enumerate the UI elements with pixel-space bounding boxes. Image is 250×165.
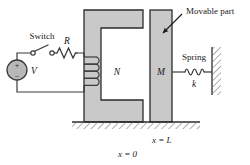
switch-left-node xyxy=(31,51,35,55)
coil-turns-label: N xyxy=(113,67,121,77)
magnetic-core xyxy=(84,10,143,122)
spring-assembly xyxy=(172,69,212,75)
switch[interactable] xyxy=(31,45,54,55)
movable-part-callout: Movable part xyxy=(163,6,235,33)
resistor-label: R xyxy=(63,36,70,46)
fixed-wall xyxy=(212,47,221,95)
movable-part-label: Movable part xyxy=(186,6,235,16)
dc-voltage-source: + − xyxy=(7,60,27,81)
ground-hatching xyxy=(72,122,200,129)
spring-label: Spring xyxy=(182,52,207,62)
electromagnet-diagram: N M Movable part Spring k xyxy=(0,0,250,165)
diagram-canvas: N M Movable part Spring k xyxy=(0,0,250,165)
spring-constant-label: k xyxy=(192,79,197,89)
source-plus-sign: + xyxy=(15,61,20,70)
switch-label: Switch xyxy=(29,31,55,41)
source-label: V xyxy=(31,66,38,76)
switch-right-node xyxy=(50,51,54,55)
position-L-label: x = L xyxy=(151,135,172,145)
position-0-label: x = 0 xyxy=(117,149,138,159)
resistor xyxy=(57,48,77,58)
mass-label: M xyxy=(156,67,166,77)
source-minus-sign: − xyxy=(15,72,20,81)
